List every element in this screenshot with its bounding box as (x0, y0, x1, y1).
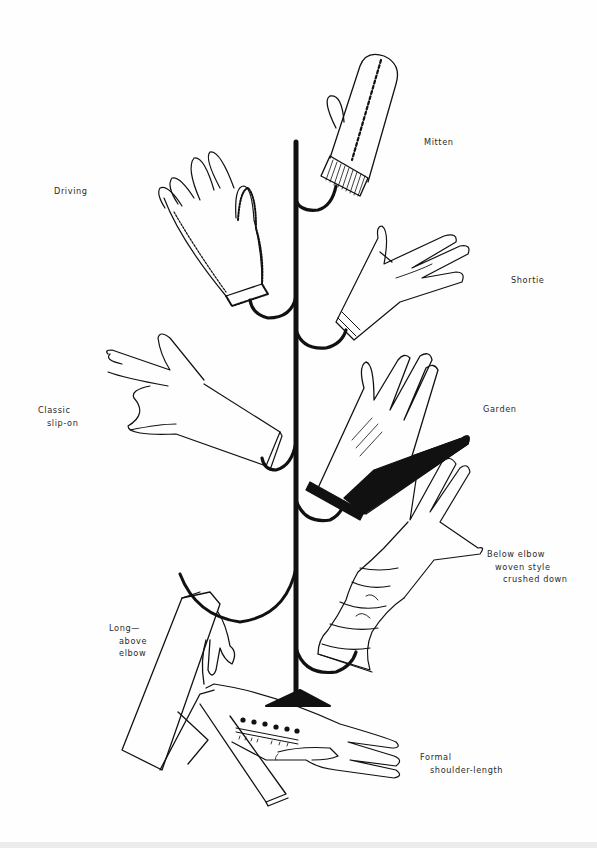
garden-glove (306, 354, 469, 520)
label-classic-line-1: Classic (38, 404, 79, 417)
label-below-elbow-line-3: crushed down (487, 573, 568, 586)
label-formal-line-2: shoulder-length (420, 764, 503, 777)
label-driving: Driving (54, 185, 88, 198)
label-garden-line-1: Garden (483, 403, 517, 416)
label-long-line-3: elbow (109, 647, 147, 660)
driving-glove (159, 152, 268, 306)
label-mitten-line-1: Mitten (424, 136, 454, 149)
label-long-line-1: Long— (109, 622, 147, 635)
label-below-elbow: Below elbow woven style crushed down (487, 548, 568, 586)
label-long-above-elbow: Long— above elbow (109, 622, 147, 660)
label-below-elbow-line-2: woven style (487, 561, 568, 574)
label-formal-line-1: Formal (420, 751, 503, 764)
page-bottom-edge (0, 842, 597, 848)
label-formal-shoulder-length: Formal shoulder-length (420, 751, 503, 776)
glove-stand-illustration (0, 0, 597, 848)
classic-slip-on-glove (107, 334, 282, 470)
label-below-elbow-line-1: Below elbow (487, 548, 568, 561)
label-long-line-2: above (109, 635, 147, 648)
label-mitten: Mitten (424, 136, 454, 149)
label-classic-line-2: slip-on (38, 417, 79, 430)
mitten-glove (321, 54, 398, 196)
label-garden: Garden (483, 403, 517, 416)
label-classic-slip-on: Classic slip-on (38, 404, 79, 429)
label-shortie: Shortie (511, 274, 544, 287)
shortie-glove (336, 226, 469, 340)
illustration-page: Mitten Driving Shortie Classic slip-on G… (0, 0, 597, 848)
label-driving-line-1: Driving (54, 185, 88, 198)
label-shortie-line-1: Shortie (511, 274, 544, 287)
